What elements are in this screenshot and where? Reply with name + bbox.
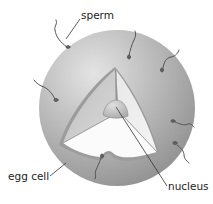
egg-cell-leader-line xyxy=(50,163,66,176)
sperm-head xyxy=(101,154,104,158)
sperm-head xyxy=(161,68,164,72)
diagram-canvas: sperm egg cell nucleus xyxy=(0,0,213,204)
sperm-tail xyxy=(55,20,67,47)
sperm-head xyxy=(128,55,131,59)
sperm-head xyxy=(171,120,175,123)
nucleus-label: nucleus xyxy=(168,180,209,192)
sperm-head xyxy=(66,46,70,49)
egg-cell-label: egg cell xyxy=(8,170,49,182)
sperm-leader-line xyxy=(66,19,80,39)
sperm-label: sperm xyxy=(81,9,114,21)
egg-cell-diagram: sperm egg cell nucleus xyxy=(0,0,213,204)
sperm-head xyxy=(173,142,177,145)
sperm-head xyxy=(54,99,58,102)
